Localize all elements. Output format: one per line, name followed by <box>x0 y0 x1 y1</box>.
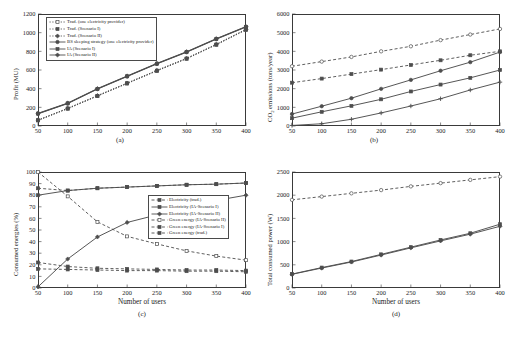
legend-item-label: Green energy (trad.) <box>168 230 207 236</box>
svg-text:2000: 2000 <box>277 85 290 92</box>
svg-text:200: 200 <box>376 289 386 296</box>
svg-text:300: 300 <box>182 289 192 296</box>
svg-text:300: 300 <box>182 127 192 134</box>
svg-text:50: 50 <box>289 127 295 134</box>
panel-c-legend-item: Electricity (trad.) <box>151 197 226 203</box>
panel-c-x-axis-label: Number of users <box>82 298 202 306</box>
panel-c-legend-item: Green energy (IA-Scenario II) <box>151 217 226 223</box>
svg-text:70: 70 <box>29 203 35 210</box>
svg-text:5000: 5000 <box>277 29 290 36</box>
svg-text:150: 150 <box>93 127 103 134</box>
panel-a-legend-item: IA (Scenario II) <box>49 52 154 58</box>
svg-text:40: 40 <box>29 238 35 245</box>
svg-text:2000: 2000 <box>277 191 290 198</box>
svg-text:150: 150 <box>347 127 357 134</box>
svg-text:30: 30 <box>29 249 35 256</box>
panel-b-y-label-pre: CO <box>266 113 273 122</box>
legend-key-icon <box>49 26 66 32</box>
svg-text:800: 800 <box>26 48 36 55</box>
svg-text:100: 100 <box>63 289 73 296</box>
svg-text:1000: 1000 <box>277 238 290 245</box>
legend-key-icon <box>151 224 168 230</box>
svg-text:250: 250 <box>406 127 416 134</box>
svg-text:150: 150 <box>347 289 357 296</box>
panel-d-x-axis-label: Number of users <box>336 298 456 306</box>
legend-item-label: BS sleeping strategy (one electricity pr… <box>66 39 154 45</box>
legend-item-label: IA (Scenario I) <box>66 46 95 52</box>
svg-text:600: 600 <box>26 66 36 73</box>
panel-a-legend-item: Trad. (Scenario II) <box>49 32 154 38</box>
legend-item-label: Trad. (one electricity provider) <box>66 19 125 25</box>
panel-d-label: (d) <box>376 310 416 318</box>
svg-text:1000: 1000 <box>23 29 36 36</box>
svg-text:300: 300 <box>436 127 446 134</box>
legend-key-icon <box>49 39 66 45</box>
svg-text:1200: 1200 <box>23 10 36 17</box>
svg-text:200: 200 <box>122 127 132 134</box>
panel-a-y-axis-label: Profit (MU) <box>12 68 19 100</box>
svg-text:50: 50 <box>29 226 35 233</box>
svg-text:60: 60 <box>29 215 35 222</box>
legend-item-label: Trad. (Scenario II) <box>66 33 102 39</box>
svg-text:400: 400 <box>26 85 36 92</box>
legend-key-icon <box>151 217 168 223</box>
legend-key-icon <box>49 46 66 52</box>
svg-text:350: 350 <box>465 127 475 134</box>
panel-c: 0102030405060708090100501001502002503003… <box>0 168 254 338</box>
panel-a-legend-item: Trad. (one electricity provider) <box>49 19 154 25</box>
svg-text:80: 80 <box>29 191 35 198</box>
svg-text:250: 250 <box>406 289 416 296</box>
svg-text:200: 200 <box>122 289 132 296</box>
legend-key-icon <box>151 197 168 203</box>
svg-text:50: 50 <box>35 127 41 134</box>
svg-text:10: 10 <box>29 273 35 280</box>
panel-d-y-axis-label: Total consumed power (W) <box>266 214 273 286</box>
legend-item-label: Green energy (IA-Scenario II) <box>168 217 226 223</box>
svg-text:100: 100 <box>26 168 36 175</box>
panel-b-svg: 0100020003000400050006000501001502002503… <box>254 0 508 170</box>
panel-a-legend: Trad. (one electricity provider)Trad. (S… <box>46 17 157 61</box>
svg-text:150: 150 <box>93 289 103 296</box>
svg-text:1500: 1500 <box>277 215 290 222</box>
legend-item-label: IA (Scenario II) <box>66 52 97 58</box>
svg-text:300: 300 <box>436 289 446 296</box>
svg-text:350: 350 <box>211 289 221 296</box>
svg-text:500: 500 <box>280 261 290 268</box>
panel-a-legend-item: IA (Scenario I) <box>49 46 154 52</box>
svg-text:20: 20 <box>29 261 35 268</box>
legend-item-label: Green energy (IA-Scenario I) <box>168 224 224 230</box>
svg-text:350: 350 <box>465 289 475 296</box>
panel-a-legend-item: BS sleeping strategy (one electricity pr… <box>49 39 154 45</box>
legend-item-label: Trad. (Scenario I) <box>66 26 100 32</box>
panel-a-label: (a) <box>100 136 140 144</box>
svg-text:200: 200 <box>376 127 386 134</box>
svg-text:6000: 6000 <box>277 10 290 17</box>
panel-b-label: (b) <box>354 136 394 144</box>
svg-text:1000: 1000 <box>277 104 290 111</box>
panel-b-y-axis-label: CO2 emissions (tons/year) <box>266 53 275 122</box>
legend-key-icon <box>49 19 66 25</box>
panel-c-legend-item: Electricity (IA-Scenario I) <box>151 204 226 210</box>
svg-text:250: 250 <box>152 289 162 296</box>
panel-c-legend-item: Green energy (IA-Scenario I) <box>151 224 226 230</box>
legend-item-label: Electricity (IA-Scenario I) <box>168 204 218 210</box>
panel-c-legend: Electricity (trad.)Electricity (IA-Scena… <box>148 195 229 239</box>
svg-text:100: 100 <box>63 127 73 134</box>
svg-text:400: 400 <box>495 289 505 296</box>
svg-text:350: 350 <box>211 127 221 134</box>
panel-c-y-axis-label: Consumed energies (%) <box>12 213 19 276</box>
svg-text:3000: 3000 <box>277 66 290 73</box>
legend-key-icon <box>151 204 168 210</box>
legend-item-label: Electricity (trad.) <box>168 197 201 203</box>
panel-d: 0500100015002000250050100150200250300350… <box>254 168 508 338</box>
panel-c-label: (c) <box>122 310 162 318</box>
svg-text:400: 400 <box>241 289 251 296</box>
svg-text:50: 50 <box>35 289 41 296</box>
panel-b-y-label-post: emissions (tons/year) <box>266 53 273 111</box>
svg-text:400: 400 <box>495 127 505 134</box>
legend-key-icon <box>49 33 66 39</box>
svg-text:4000: 4000 <box>277 48 290 55</box>
legend-item-label: Electricity (IA-Scenario II) <box>168 211 220 217</box>
svg-text:2500: 2500 <box>277 168 290 175</box>
legend-key-icon <box>151 230 168 236</box>
